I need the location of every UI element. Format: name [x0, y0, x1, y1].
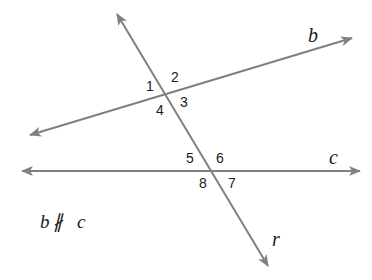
note-right-line: c [77, 211, 86, 232]
label-line-b: b [308, 24, 318, 46]
angle-4-label: 4 [156, 102, 164, 118]
angle-8-label: 8 [199, 175, 207, 191]
not-parallel-note: b ∦ c [40, 211, 86, 233]
label-line-r: r [272, 228, 280, 250]
transversal-diagram: b c r 1 2 3 4 5 6 7 8 b ∦ c [0, 0, 372, 280]
angle-6-label: 6 [216, 150, 224, 166]
angle-2-label: 2 [171, 69, 179, 85]
angle-5-label: 5 [186, 150, 194, 166]
not-parallel-symbol: ∦ [53, 211, 64, 233]
note-left-line: b [40, 211, 50, 232]
line-b [30, 38, 352, 135]
angle-1-label: 1 [146, 78, 154, 94]
angle-3-label: 3 [180, 94, 188, 110]
label-line-c: c [329, 146, 338, 168]
line-r-transversal [117, 14, 268, 266]
angle-7-label: 7 [228, 175, 236, 191]
